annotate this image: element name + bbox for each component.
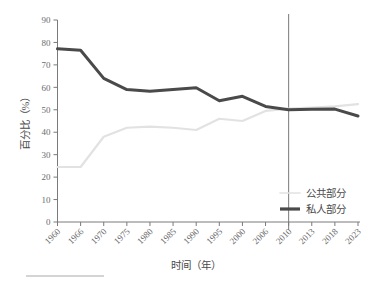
y-tick-label: 60 — [42, 83, 52, 93]
legend-label-public: 公共部分 — [306, 187, 347, 199]
y-tick-label: 70 — [42, 60, 52, 70]
y-tick-label: 10 — [42, 195, 52, 205]
y-tick-label: 0 — [46, 217, 51, 227]
x-tick-label: 1975 — [112, 226, 132, 246]
y-tick-label: 90 — [42, 15, 52, 25]
x-tick-label: 1960 — [43, 226, 63, 246]
x-axis-ticks: 1960196619701975198019851990199520002006… — [43, 222, 364, 246]
x-tick-label: 1970 — [89, 226, 109, 246]
y-tick-label: 20 — [42, 172, 52, 182]
y-axis-title: 百分比（%） — [19, 92, 31, 151]
x-tick-label: 2018 — [320, 226, 340, 246]
y-tick-label: 50 — [42, 105, 52, 115]
series-line-public — [58, 104, 359, 167]
x-tick-label: 1990 — [181, 226, 201, 246]
y-tick-label: 40 — [42, 127, 52, 137]
chart-figure: 0102030405060708090 19601966197019751980… — [0, 0, 375, 287]
x-tick-label: 1995 — [204, 226, 224, 246]
y-tick-label: 30 — [42, 150, 52, 160]
x-tick-label: 1980 — [135, 226, 155, 246]
x-tick-label: 2013 — [297, 226, 317, 246]
y-axis-ticks: 0102030405060708090 — [42, 15, 58, 227]
line-chart-canvas: 0102030405060708090 19601966197019751980… — [0, 0, 375, 287]
x-axis-title: 时间（年） — [171, 259, 221, 271]
series-line-private — [58, 49, 359, 116]
x-tick-label: 2010 — [274, 226, 294, 246]
x-tick-label: 2006 — [251, 226, 271, 246]
legend-label-private: 私人部分 — [306, 203, 347, 215]
x-tick-label: 2023 — [343, 226, 363, 246]
chart-legend: 公共部分 私人部分 — [280, 187, 347, 215]
x-tick-label: 1985 — [158, 226, 178, 246]
x-tick-label: 1966 — [66, 226, 86, 246]
y-tick-label: 80 — [42, 38, 52, 48]
x-tick-label: 2000 — [228, 226, 248, 246]
